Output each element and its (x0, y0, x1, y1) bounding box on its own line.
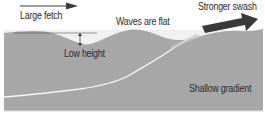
water-texture (4, 30, 263, 111)
shallow-gradient-label: Shallow gradient (189, 83, 251, 94)
waves-flat-label: Waves are flat (116, 16, 169, 27)
thin-right-arrow-icon (20, 3, 78, 10)
stronger-swash-label: Stronger swash (198, 1, 257, 12)
low-height-label: Low height (64, 48, 105, 59)
large-fetch-label: Large fetch (20, 10, 62, 21)
constructive-wave-diagram: Large fetch Waves are flat Stronger swas… (0, 0, 265, 117)
